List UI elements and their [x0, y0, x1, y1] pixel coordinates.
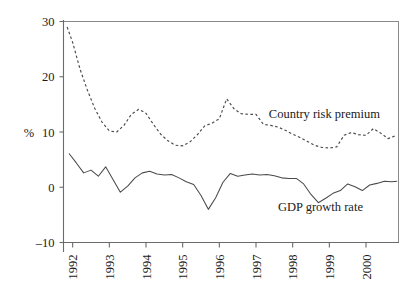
y-tick-label: 30: [42, 15, 55, 29]
y-tick-label: –10: [35, 236, 55, 250]
x-tick-label: 1998: [286, 255, 300, 280]
y-axis-tick-labels: 3020100–10: [35, 15, 55, 250]
x-axis-ticks: [73, 243, 366, 248]
x-tick-label: 1992: [66, 255, 80, 280]
x-tick-label: 1994: [140, 254, 154, 280]
y-tick-label: 10: [42, 126, 55, 140]
series-inline-labels: Country risk premiumGDP growth rate: [269, 107, 380, 214]
series-line-country-risk-premium: [67, 27, 395, 148]
y-tick-label: 20: [42, 70, 55, 84]
chart-figure: 3020100–10 19921993199419951996199719981…: [0, 0, 415, 300]
x-tick-label: 1999: [323, 255, 337, 280]
series-label-gdp-growth-rate: GDP growth rate: [278, 200, 363, 214]
plot-frame: [63, 20, 399, 252]
y-axis-ticks: [60, 22, 64, 243]
x-tick-label: 1997: [250, 255, 264, 280]
x-tick-label: 2000: [360, 255, 374, 280]
series-label-country-risk-premium: Country risk premium: [269, 107, 380, 121]
x-tick-label: 1995: [176, 255, 190, 280]
x-axis-tick-labels: 199219931994199519961997199819992000: [66, 254, 373, 280]
y-axis-unit-label: %: [24, 126, 34, 140]
x-tick-label: 1996: [213, 255, 227, 280]
x-tick-label: 1993: [103, 255, 117, 280]
y-tick-label: 0: [48, 181, 54, 195]
